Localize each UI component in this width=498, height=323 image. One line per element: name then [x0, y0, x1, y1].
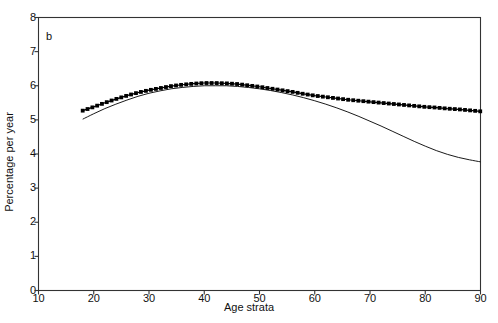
- data-point-marker: [134, 91, 138, 95]
- data-point-marker: [306, 93, 310, 97]
- data-point-marker: [428, 105, 432, 109]
- data-point-marker: [164, 85, 168, 89]
- data-point-marker: [361, 99, 365, 103]
- data-point-marker: [367, 100, 371, 104]
- data-point-marker: [210, 81, 214, 85]
- data-point-marker: [139, 90, 143, 94]
- data-point-marker: [417, 104, 421, 108]
- data-point-marker: [443, 106, 447, 110]
- data-point-marker: [100, 102, 104, 106]
- data-point-marker: [184, 82, 188, 86]
- data-point-marker: [448, 107, 452, 111]
- data-point-marker: [407, 104, 411, 108]
- data-point-marker: [301, 92, 305, 96]
- data-point-marker: [255, 85, 259, 89]
- data-point-marker: [240, 83, 244, 87]
- data-point-marker: [129, 93, 133, 97]
- data-point-marker: [110, 99, 114, 103]
- data-point-marker: [189, 82, 193, 86]
- data-point-marker: [316, 94, 320, 98]
- data-point-marker: [86, 107, 90, 111]
- data-point-marker: [296, 91, 300, 95]
- data-point-marker: [159, 86, 163, 90]
- data-point-marker: [326, 95, 330, 99]
- data-point-marker: [250, 84, 254, 88]
- data-point-marker: [321, 95, 325, 99]
- figure-panel-b: Percentage per year b 012345678 10203040…: [0, 0, 498, 323]
- data-point-marker: [205, 81, 209, 85]
- data-point-marker: [351, 98, 355, 102]
- data-point-marker: [458, 108, 462, 112]
- data-point-marker: [179, 83, 183, 87]
- data-point-marker: [266, 86, 270, 90]
- data-point-marker: [105, 100, 109, 104]
- data-point-marker: [311, 93, 315, 97]
- axes-frame: [39, 18, 481, 291]
- data-point-marker: [225, 82, 229, 86]
- data-point-marker: [286, 89, 290, 93]
- data-point-marker: [281, 88, 285, 92]
- data-point-marker: [341, 97, 345, 101]
- data-point-marker: [291, 90, 295, 94]
- data-point-marker: [336, 97, 340, 101]
- axis-ticks: [35, 18, 481, 295]
- x-axis-title-text: Age strata: [224, 301, 274, 313]
- data-point-marker: [194, 82, 198, 86]
- data-point-marker: [276, 88, 280, 92]
- data-point-marker: [392, 102, 396, 106]
- data-point-marker: [144, 89, 148, 93]
- data-point-marker: [200, 81, 204, 85]
- data-point-marker: [124, 94, 128, 98]
- series-fitted: [83, 86, 481, 162]
- data-point-marker: [149, 88, 153, 92]
- data-point-marker: [377, 101, 381, 105]
- data-point-marker: [463, 108, 467, 112]
- data-point-marker: [346, 98, 350, 102]
- data-point-marker: [412, 104, 416, 108]
- data-point-marker: [235, 82, 239, 86]
- data-point-marker: [402, 103, 406, 107]
- data-point-marker: [119, 95, 123, 99]
- data-series: [81, 81, 482, 162]
- data-point-marker: [271, 87, 275, 91]
- data-point-marker: [115, 97, 119, 101]
- data-point-marker: [95, 104, 99, 108]
- data-point-marker: [230, 82, 234, 86]
- x-axis-title: Age strata: [0, 301, 498, 313]
- data-point-marker: [245, 83, 249, 87]
- data-point-marker: [453, 107, 457, 111]
- data-point-marker: [331, 96, 335, 100]
- data-point-marker: [438, 106, 442, 110]
- data-point-marker: [478, 109, 482, 113]
- data-point-marker: [372, 100, 376, 104]
- data-point-marker: [397, 103, 401, 107]
- data-point-marker: [356, 99, 360, 103]
- data-point-marker: [468, 108, 472, 112]
- plot-frame: [39, 18, 481, 291]
- series-observed: [81, 81, 482, 113]
- data-point-marker: [260, 85, 264, 89]
- data-point-marker: [422, 105, 426, 109]
- data-point-marker: [473, 109, 477, 113]
- data-point-marker: [220, 81, 224, 85]
- data-point-marker: [387, 102, 391, 106]
- plot-area: [0, 0, 498, 323]
- data-point-marker: [433, 106, 437, 110]
- data-point-marker: [382, 101, 386, 105]
- data-point-marker: [169, 84, 173, 88]
- data-point-marker: [81, 109, 85, 113]
- data-point-marker: [90, 105, 94, 109]
- series-line: [83, 86, 481, 162]
- data-point-marker: [174, 84, 178, 88]
- data-point-marker: [215, 81, 219, 85]
- data-point-marker: [154, 87, 158, 91]
